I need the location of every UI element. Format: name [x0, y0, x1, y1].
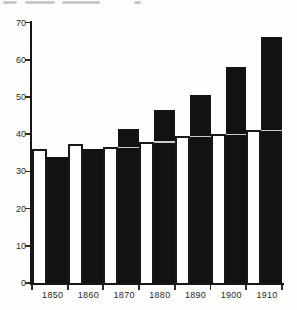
bar-1850-outlined	[32, 149, 47, 283]
y-tick-label: 40	[6, 129, 26, 139]
scanned-page: 0102030405060701850186018701880189019001…	[0, 0, 297, 310]
y-tick-label: 70	[6, 18, 26, 28]
y-tick-label: 60	[6, 55, 26, 65]
bar-1910-outlined	[246, 130, 261, 283]
bar-1900-solid	[226, 67, 247, 283]
bar-1910-outline-rule	[261, 130, 282, 132]
bar-1860-outlined	[68, 144, 83, 284]
x-tick-label: 1860	[72, 290, 104, 300]
x-tick	[31, 285, 33, 290]
bar-1880-outlined	[139, 142, 154, 283]
bar-1860-solid	[83, 149, 104, 283]
x-tick-label: 1870	[108, 290, 140, 300]
x-tick-label: 1910	[251, 290, 283, 300]
x-tick-label: 1880	[144, 290, 176, 300]
x-tick-label: 1890	[180, 290, 212, 300]
y-tick-label: 20	[6, 204, 26, 214]
bar-1890-outline-rule	[190, 136, 211, 138]
bar-chart: 0102030405060701850186018701880189019001…	[0, 0, 297, 310]
bar-1870-outline-rule	[118, 147, 139, 149]
bar-1900-outlined	[211, 134, 226, 283]
y-tick-label: 10	[6, 241, 26, 251]
bar-1900-outline-rule	[226, 134, 247, 136]
y-tick-label: 50	[6, 92, 26, 102]
bar-1850-solid	[47, 157, 68, 283]
bar-1910-solid	[261, 37, 282, 283]
y-tick-label: 0	[6, 278, 26, 288]
x-tick-label: 1900	[215, 290, 247, 300]
bar-1870-outlined	[103, 147, 118, 283]
bar-1880-outline-rule	[154, 141, 175, 143]
bar-1870-solid	[118, 129, 139, 283]
y-tick-label: 30	[6, 166, 26, 176]
bar-1890-solid	[190, 95, 211, 283]
x-tick-label: 1850	[37, 290, 69, 300]
bar-1880-solid	[154, 110, 175, 283]
bar-1890-outlined	[175, 136, 190, 283]
